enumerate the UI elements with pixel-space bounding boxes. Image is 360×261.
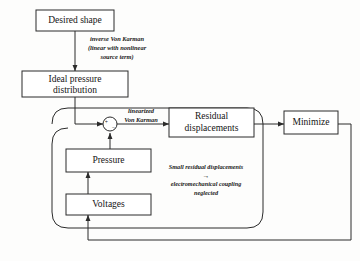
residual-displacements-label-line2: displacements [185, 123, 239, 133]
coupling-note-line3: neglected [194, 189, 219, 196]
diagram-canvas: + − Desired shape Ideal pressure distrib… [0, 0, 360, 261]
connector-ideal-to-sum [75, 97, 103, 124]
inverse-von-karman-label-line3: source term) [99, 53, 133, 61]
summing-junction-plus-sign: + [105, 119, 108, 125]
inverse-von-karman-label-line1: inverse Von Karman [90, 35, 144, 42]
coupling-note-line2: electromechanical coupling [171, 180, 242, 187]
inverse-von-karman-label-line2: (linear with nonlinear [88, 44, 147, 52]
ideal-pressure-label-line1: Ideal pressure [48, 74, 101, 84]
minimize-label: Minimize [293, 117, 330, 127]
residual-displacements-label-line1: Residual [195, 111, 229, 121]
pressure-label: Pressure [92, 155, 124, 165]
block-diagram: + − Desired shape Ideal pressure distrib… [0, 0, 360, 261]
coupling-note-arrow-icon: → [203, 172, 210, 180]
voltages-label: Voltages [92, 199, 125, 209]
summing-junction-minus-sign: − [112, 124, 115, 130]
ideal-pressure-label-line2: distribution [53, 85, 97, 95]
coupling-note-line1: Small residual displacements [169, 163, 244, 170]
linearized-von-karman-label-line1: linearized [128, 107, 155, 114]
linearized-von-karman-label-line2: Von Karman [124, 116, 158, 123]
desired-shape-label: Desired shape [48, 15, 102, 25]
